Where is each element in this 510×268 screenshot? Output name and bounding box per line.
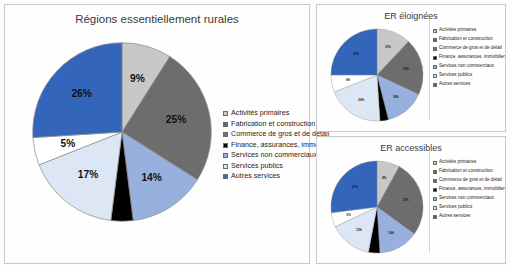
legend-swatch [433,215,437,219]
pie-slice-label: 12% [385,45,391,49]
legend-item-label: Autres services [231,172,280,180]
legend-item-label: Commerce de gros et de détail [439,177,502,182]
legend-item: Commerce de gros et de détail [223,130,309,138]
legend-item-label: Activités primaires [439,159,476,164]
legend-swatch [223,164,228,169]
legend-item-label: Services publics [439,72,472,77]
legend-item: Commerce de gros et de détail [433,45,505,51]
figure-root: Régions essentiellement rurales 9%25%14%… [0,0,510,268]
legend-swatch [433,47,437,51]
pie-slice-label: 5% [347,213,352,217]
legend-item: Activités primaires [433,159,505,165]
legend-swatch [433,29,437,33]
legend-item: Activités primaires [223,109,309,117]
legend-far: Activités primairesFabrication et constr… [433,27,505,90]
legend-item: Fabrication et construction [433,36,505,42]
legend-item-label: Services publics [231,162,283,170]
legend-item: Services publics [433,204,505,210]
pie-chart-far: 12%20%14%3%20%6%25% [329,27,425,123]
legend-item-label: Services non commerciaux [439,195,494,200]
pie-slice-label: 8% [382,176,387,180]
chart-title-main: Régions essentiellement rurales [5,13,309,25]
legend-item: Services non commerciaux [433,63,505,69]
legend-item-label: Finance, assurances, immobilier [439,186,505,191]
pie-slice-label: 14% [141,172,161,183]
pie-slice-label: 9% [130,73,145,84]
pie-slice-label: 5% [61,138,76,149]
legend-swatch [433,74,437,78]
legend-item: Autres services [433,213,505,219]
legend-item-label: Activités primaires [231,109,289,117]
legend-divider-acc [429,151,430,253]
pie-slice-label: 25% [166,114,186,125]
legend-item: Services publics [223,162,309,170]
legend-divider-far [429,19,430,121]
legend-item-label: Fabrication et construction [231,120,315,128]
pie-svg-main: 9%25%14%17%5%26% [29,39,215,225]
pie-slice-label: 20% [403,67,409,71]
legend-item: Services non commerciaux [223,151,309,159]
legend-swatch [433,65,437,69]
pie-svg-far: 12%20%14%3%20%6%25% [329,27,425,123]
legend-item-label: Services non commerciaux [439,63,494,68]
panel-er-accessibles: ER accessibles 8%27%14%15%5%27% Activité… [316,136,506,264]
legend-item: Services non commerciaux [433,195,505,201]
pie-slice-label: 20% [358,98,364,102]
legend-item: Finance, assurances, immobilier [433,186,505,192]
pie-slice-label: 14% [393,95,399,99]
legend-item-label: Fabrication et construction [439,168,493,173]
legend-swatch [433,206,437,210]
legend-item: Services publics [433,72,505,78]
pie-slice-label: 25% [353,52,359,56]
pie-slice-label: 26% [71,88,91,99]
legend-swatch [223,143,228,148]
legend-item-label: Commerce de gros et de détail [231,130,329,138]
legend-swatch [433,188,437,192]
legend-item: Autres services [433,81,505,87]
pie-svg-acc: 8%27%14%15%5%27% [329,159,425,255]
pie-slice-label: 3% [380,102,385,106]
legend-swatch [433,56,437,60]
legend-main: Activités primairesFabrication et constr… [223,109,309,183]
legend-swatch [433,197,437,201]
legend-swatch [433,83,437,87]
legend-swatch [433,38,437,42]
legend-swatch [223,122,228,127]
chart-title-acc: ER accessibles [317,143,505,153]
legend-item: Finance, assurances, immobilier [433,54,505,60]
legend-acc: Activités primairesFabrication et constr… [433,159,505,222]
legend-item: Finance, assurances, immobilier [223,141,309,149]
legend-item: Commerce de gros et de détail [433,177,505,183]
legend-swatch [223,132,228,137]
pie-chart-acc: 8%27%14%15%5%27% [329,159,425,255]
legend-item-label: Autres services [439,213,470,218]
panel-er-eloignees: ER éloignées 12%20%14%3%20%6%25% Activit… [316,4,506,132]
legend-item: Fabrication et construction [433,168,505,174]
legend-swatch [223,153,228,158]
legend-item: Autres services [223,172,309,180]
pie-slice-label: 14% [388,231,394,235]
legend-item-label: Finance, assurances, immobilier [439,54,505,59]
legend-item-label: Fabrication et construction [439,36,493,41]
legend-item-label: Commerce de gros et de détail [439,45,502,50]
panel-regions-rurales: Régions essentiellement rurales 9%25%14%… [4,4,310,264]
legend-item-label: Autres services [439,81,470,86]
pie-slice-label: 27% [352,185,358,189]
legend-swatch [433,170,437,174]
legend-item-label: Services publics [439,204,472,209]
pie-slice-label: 15% [356,228,362,232]
legend-item: Activités primaires [433,27,505,33]
pie-slice-label: 27% [403,198,409,202]
pie-slice-label: 6% [346,78,351,82]
pie-slice-label: 17% [78,169,98,180]
legend-item: Fabrication et construction [223,120,309,128]
legend-item-label: Services non commerciaux [231,151,317,159]
legend-swatch [223,111,228,116]
legend-swatch [223,174,228,179]
chart-title-far: ER éloignées [317,11,505,21]
legend-swatch [433,179,437,183]
pie-chart-main: 9%25%14%17%5%26% [29,39,215,225]
legend-swatch [433,161,437,165]
legend-item-label: Activités primaires [439,27,476,32]
